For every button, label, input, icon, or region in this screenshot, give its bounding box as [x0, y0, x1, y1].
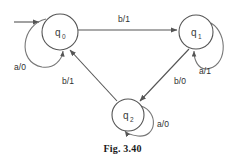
- state-subscript-q0: 0: [62, 33, 66, 40]
- state-subscript-q1: 1: [198, 33, 202, 40]
- transition-label-q0-self: a/0: [14, 62, 26, 72]
- figure-container: q 0 q 1 q 2 b/1 a/0 a/1 a/0 b/0 b/1 Fig.…: [0, 0, 245, 166]
- transition-label-q2-q0: b/1: [62, 76, 74, 86]
- transition-q2-to-q0: [70, 50, 117, 101]
- transition-label-q2-self: a/0: [157, 119, 169, 129]
- state-label-q1: q: [191, 27, 197, 38]
- state-transition-diagram: q 0 q 1 q 2 b/1 a/0 a/1 a/0 b/0 b/1: [0, 0, 245, 166]
- transition-label-q1-self: a/1: [199, 66, 211, 76]
- state-subscript-q2: 2: [130, 116, 134, 123]
- state-label-q0: q: [55, 27, 61, 38]
- state-label-q2: q: [123, 110, 129, 121]
- transition-label-q1-q2: b/0: [174, 76, 186, 86]
- transition-q1-to-q2: [140, 49, 189, 101]
- transition-label-q0-q1: b/1: [118, 14, 130, 24]
- figure-caption: Fig. 3.40: [0, 143, 245, 154]
